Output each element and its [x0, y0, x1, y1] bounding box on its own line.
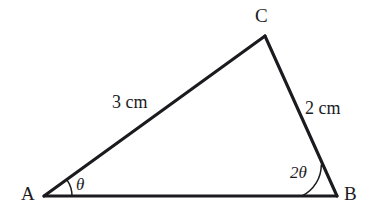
side-length-label-cb: 2 cm [305, 99, 341, 117]
angle-arc-a [67, 180, 72, 196]
vertex-label-c: C [255, 6, 268, 25]
angle-label-b: 2θ [290, 164, 307, 181]
vertex-label-b: B [344, 184, 357, 203]
triangle-side-ac [44, 36, 265, 196]
angle-label-a: θ [76, 176, 84, 193]
vertex-label-a: A [21, 184, 35, 203]
side-length-label-ac: 3 cm [112, 93, 148, 111]
triangle-diagram: A B C 3 cm 2 cm θ 2θ [0, 0, 372, 224]
